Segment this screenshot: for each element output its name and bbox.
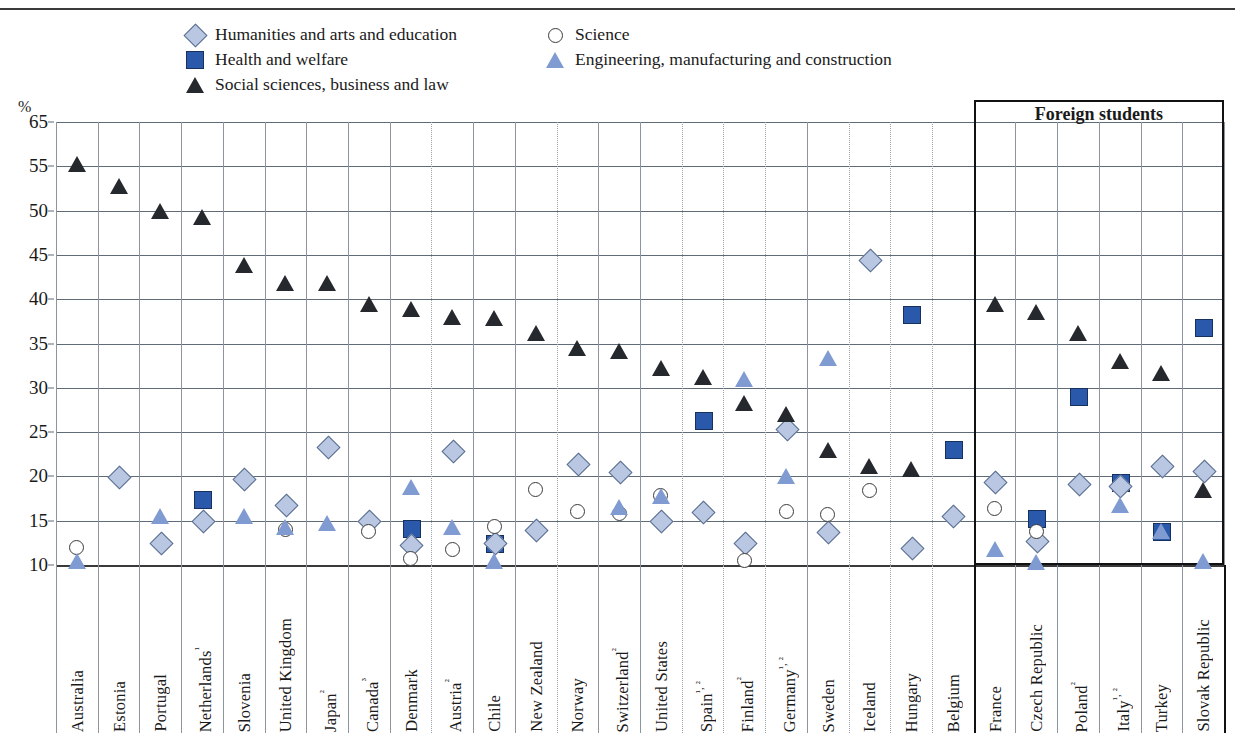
x-axis-label: Denmark bbox=[402, 669, 422, 732]
footnote-marker: ¹, ² bbox=[777, 657, 788, 669]
label-column-separator bbox=[765, 565, 767, 733]
label-column-separator bbox=[223, 565, 224, 733]
footnote-marker: ² bbox=[443, 679, 454, 682]
data-point-triangle-dark-icon bbox=[1111, 353, 1129, 373]
label-column-separator bbox=[1099, 565, 1100, 733]
data-point-diamond-icon bbox=[236, 471, 253, 492]
data-point-diamond-icon bbox=[1071, 476, 1088, 497]
label-column-separator bbox=[557, 565, 559, 733]
x-axis-label: Austria² bbox=[443, 679, 466, 732]
column-separator bbox=[640, 122, 641, 565]
column-separator bbox=[348, 122, 349, 565]
data-point-diamond-icon bbox=[111, 469, 128, 490]
legend-item-health: Health and welfare bbox=[186, 51, 348, 69]
column-separator bbox=[98, 122, 99, 565]
data-point-triangle-blue-icon bbox=[1152, 523, 1170, 543]
column-separator bbox=[723, 122, 725, 565]
data-point-diamond-icon bbox=[320, 439, 337, 460]
data-point-triangle-dark-icon bbox=[235, 257, 253, 277]
data-point-triangle-blue-icon bbox=[402, 479, 420, 499]
column-separator bbox=[765, 122, 767, 565]
data-point-diamond-icon bbox=[278, 497, 295, 518]
column-separator bbox=[181, 122, 182, 565]
data-point-diamond-icon bbox=[445, 443, 462, 464]
label-column-separator bbox=[640, 565, 641, 733]
data-point-triangle-blue-icon bbox=[652, 488, 670, 508]
data-point-triangle-dark-icon bbox=[1069, 325, 1087, 345]
data-point-diamond-icon bbox=[862, 252, 879, 273]
label-column-separator bbox=[348, 565, 349, 733]
label-column-separator bbox=[515, 565, 516, 733]
x-axis-labels: AustraliaEstoniaPortugalNetherlands¹Slov… bbox=[56, 565, 1224, 738]
footnote-marker: ¹, ² bbox=[1111, 688, 1122, 700]
data-point-triangle-dark-icon bbox=[568, 340, 586, 360]
footnote-marker: ² bbox=[1069, 682, 1080, 685]
legend-item-label: Science bbox=[575, 26, 629, 44]
diamond-icon bbox=[186, 26, 204, 44]
label-column-separator bbox=[390, 565, 391, 733]
circle-icon bbox=[546, 26, 564, 44]
label-column-separator bbox=[807, 565, 808, 733]
x-axis-label: Netherlands¹ bbox=[193, 647, 216, 732]
column-separator bbox=[515, 122, 516, 565]
y-tick-label: 15 bbox=[29, 510, 48, 532]
x-axis-label: Switzerland² bbox=[610, 648, 633, 732]
label-column-separator bbox=[306, 565, 307, 733]
data-point-triangle-dark-icon bbox=[694, 369, 712, 389]
data-point-triangle-dark-icon bbox=[777, 406, 795, 426]
footnote-marker: ¹ bbox=[193, 647, 204, 650]
data-point-diamond-icon bbox=[904, 540, 921, 561]
x-axis-label: Slovenia bbox=[235, 673, 255, 732]
label-column-separator bbox=[598, 565, 599, 733]
data-point-triangle-dark-icon bbox=[360, 296, 378, 316]
label-column-separator bbox=[1057, 565, 1058, 733]
column-separator bbox=[306, 122, 307, 565]
chart-area: % 6555504540353025201510Foreign students… bbox=[0, 100, 1235, 738]
y-tick-mark bbox=[48, 476, 54, 477]
data-point-triangle-blue-icon bbox=[735, 371, 753, 391]
column-separator bbox=[223, 122, 224, 565]
y-tick-label: 35 bbox=[29, 333, 48, 355]
label-column-separator bbox=[890, 565, 892, 733]
column-separator bbox=[557, 122, 559, 565]
label-column-separator bbox=[932, 565, 934, 733]
data-point-circle-icon bbox=[779, 504, 794, 523]
x-axis-label: Norway bbox=[568, 678, 588, 732]
x-axis-label: Japan² bbox=[318, 690, 341, 732]
x-axis-label: Iceland bbox=[860, 682, 880, 732]
data-point-diamond-icon bbox=[820, 524, 837, 545]
legend-item-label: Social sciences, business and law bbox=[215, 76, 449, 94]
column-separator bbox=[473, 122, 474, 565]
x-axis-label: Sweden bbox=[819, 679, 839, 732]
data-point-triangle-dark-icon bbox=[652, 360, 670, 380]
x-axis-label: United Kingdom bbox=[276, 618, 296, 732]
data-point-triangle-dark-icon bbox=[402, 301, 420, 321]
data-point-square-icon bbox=[945, 441, 963, 463]
x-axis-label: Poland² bbox=[1069, 682, 1092, 732]
column-separator bbox=[807, 122, 808, 565]
label-column-separator bbox=[431, 565, 433, 733]
data-point-triangle-blue-icon bbox=[318, 515, 336, 535]
column-separator bbox=[265, 122, 266, 565]
y-tick-label: 40 bbox=[29, 288, 48, 310]
legend-item-label: Engineering, manufacturing and construct… bbox=[575, 51, 892, 69]
top-rule bbox=[0, 8, 1235, 10]
data-point-triangle-dark-icon bbox=[1194, 482, 1212, 502]
foreign-students-title: Foreign students bbox=[974, 104, 1224, 125]
data-point-diamond-icon bbox=[612, 464, 629, 485]
y-tick-label: 10 bbox=[29, 554, 48, 576]
x-axis-label: Estonia bbox=[110, 681, 130, 732]
footnote-marker: ² bbox=[318, 690, 329, 693]
y-tick-mark bbox=[48, 343, 54, 344]
data-point-triangle-dark-icon bbox=[1152, 365, 1170, 385]
x-axis-label: New Zealand bbox=[527, 641, 547, 732]
data-point-diamond-icon bbox=[153, 535, 170, 556]
label-column-separator bbox=[974, 565, 976, 733]
data-point-triangle-blue-icon bbox=[610, 499, 628, 519]
label-column-separator bbox=[1224, 565, 1226, 733]
y-tick-mark bbox=[48, 520, 54, 521]
footnote-marker: ¹, ² bbox=[694, 681, 705, 693]
data-point-square-icon bbox=[1195, 319, 1213, 341]
data-point-triangle-dark-icon bbox=[318, 275, 336, 295]
data-point-diamond-icon bbox=[653, 513, 670, 534]
